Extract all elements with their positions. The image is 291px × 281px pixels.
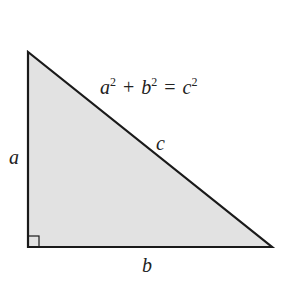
label-hypotenuse-c: c	[156, 132, 165, 154]
triangle-diagram: a2 + b2 = c2 a c b	[0, 0, 291, 281]
label-side-a: a	[9, 146, 19, 168]
label-side-b: b	[142, 254, 152, 276]
equation: a2 + b2 = c2	[100, 68, 197, 98]
